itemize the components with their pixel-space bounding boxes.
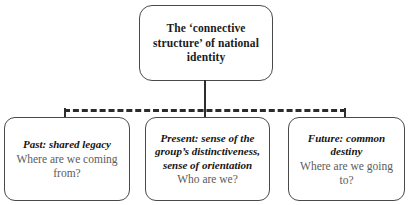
leaf-node-present-question: Who are we?	[177, 172, 238, 186]
connector-bus-dashed	[64, 109, 346, 112]
leaf-node-future: Future: common destiny Where are we goin…	[288, 117, 405, 201]
connector-trunk-vertical	[204, 80, 206, 118]
root-node-label: The ‘connective structure’ of national i…	[145, 21, 267, 65]
leaf-node-future-question: Where are we going to?	[294, 159, 399, 187]
leaf-node-past-question: Where are we coming from?	[10, 152, 124, 180]
root-node-connective-structure: The ‘connective structure’ of national i…	[139, 5, 273, 81]
leaf-node-future-heading: Future: common destiny	[294, 132, 399, 159]
connective-structure-diagram: The ‘connective structure’ of national i…	[0, 0, 410, 205]
leaf-node-past-heading: Past: shared legacy	[23, 138, 111, 152]
leaf-node-past: Past: shared legacy Where are we coming …	[4, 117, 130, 201]
leaf-node-present-heading: Present: sense of the group’s distinctiv…	[151, 132, 264, 173]
leaf-node-present: Present: sense of the group’s distinctiv…	[145, 117, 270, 201]
